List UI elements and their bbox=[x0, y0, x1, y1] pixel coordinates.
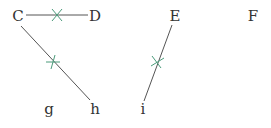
segment-e-i bbox=[144, 25, 172, 101]
segment-c-h bbox=[21, 26, 90, 100]
point-label-d: D bbox=[89, 7, 101, 25]
point-label-h: h bbox=[90, 100, 100, 118]
point-label-c: C bbox=[12, 7, 23, 25]
matching-diagram: C D E F g h i bbox=[0, 0, 271, 128]
segment-c-d bbox=[26, 9, 88, 21]
diagram-svg: C D E F g h i bbox=[0, 0, 271, 128]
point-label-f: F bbox=[248, 7, 258, 25]
cross-mark-icon bbox=[46, 55, 60, 69]
point-label-e: E bbox=[170, 7, 181, 25]
point-label-i: i bbox=[141, 100, 146, 118]
cross-mark-icon bbox=[151, 56, 164, 68]
point-label-g: g bbox=[44, 100, 54, 118]
